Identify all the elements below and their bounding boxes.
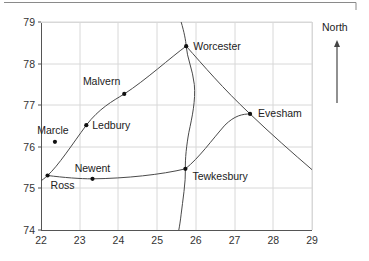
x-tick-label: 25: [151, 234, 163, 246]
compass-arrow-head: [334, 40, 340, 47]
town-marker-worcester[interactable]: [184, 44, 188, 48]
x-tick-label: 28: [267, 234, 279, 246]
x-tick-label: 22: [35, 234, 47, 246]
x-tick-label: 26: [190, 234, 202, 246]
y-tick-label: 78: [23, 58, 35, 70]
town-label-tewkesbury: Tewkesbury: [192, 170, 248, 182]
x-tick-label: 24: [113, 234, 125, 246]
town-marker-malvern[interactable]: [122, 92, 126, 96]
town-label-worcester: Worcester: [193, 40, 241, 52]
x-tick-label: 29: [306, 234, 318, 246]
route-ross-malvern-worcester: [41, 46, 186, 181]
town-marker-evesham[interactable]: [248, 112, 252, 116]
town-marker-ledbury[interactable]: [84, 123, 88, 127]
compass: North: [322, 21, 348, 103]
town-marker-ross[interactable]: [45, 173, 49, 177]
town-label-ross: Ross: [51, 179, 75, 191]
page-top-rule: [4, 3, 356, 11]
town-marker-tewkesbury[interactable]: [183, 167, 187, 171]
town-marker-marcle[interactable]: [53, 140, 57, 144]
town-marker-newent[interactable]: [90, 177, 94, 181]
y-tick-label: 77: [23, 99, 35, 111]
y-tick-label: 76: [23, 141, 35, 153]
town-markers: WorcesterMalvernLedburyMarcleRossNewentT…: [37, 40, 302, 191]
x-tick-labels: 2223242526272829: [35, 234, 318, 246]
town-label-marcle: Marcle: [37, 124, 69, 136]
route-ross-newent-tewkesbury: [48, 169, 186, 179]
town-label-malvern: Malvern: [83, 75, 121, 87]
map-svg: 7475767778792223242526272829WorcesterMal…: [0, 0, 369, 261]
compass-label: North: [322, 21, 348, 33]
route-network: [41, 22, 312, 230]
y-tick-label: 79: [23, 16, 35, 28]
map-figure: 7475767778792223242526272829WorcesterMal…: [0, 0, 369, 261]
x-tick-label: 23: [74, 234, 86, 246]
route-tewkesbury-evesham: [185, 114, 250, 169]
y-tick-label: 75: [23, 182, 35, 194]
y-tick-labels: 747576777879: [23, 16, 35, 236]
x-tick-label: 27: [229, 234, 241, 246]
town-label-newent: Newent: [75, 162, 111, 174]
town-label-evesham: Evesham: [258, 107, 302, 119]
y-tick-label: 74: [23, 224, 35, 236]
town-label-ledbury: Ledbury: [92, 119, 131, 131]
